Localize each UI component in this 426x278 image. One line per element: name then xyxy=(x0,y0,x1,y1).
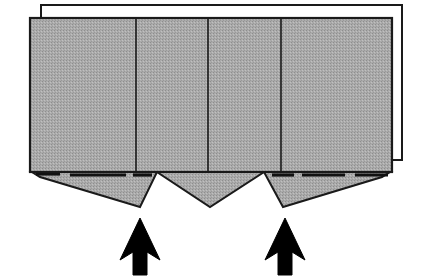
front-panel-body xyxy=(30,18,392,172)
figure-canvas: Folded carton blank with bottom flaps an… xyxy=(0,0,426,278)
carton-diagram xyxy=(0,0,426,278)
front-panel-group xyxy=(30,18,392,172)
